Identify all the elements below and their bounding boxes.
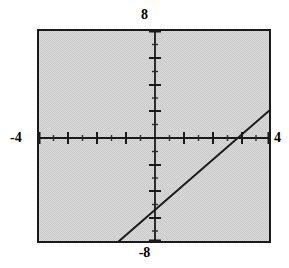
x-axis-max-label: 4 — [274, 131, 281, 145]
y-axis-min-label: -8 — [0, 246, 289, 260]
y-axis-max-label: 8 — [0, 8, 289, 22]
line-chart-plot — [0, 0, 289, 268]
chart-figure: 8 -8 -4 4 — [0, 0, 289, 268]
x-axis-min-label: -4 — [10, 131, 22, 145]
